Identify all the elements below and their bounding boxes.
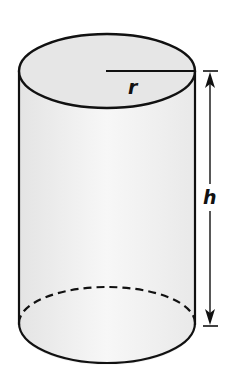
cylinder-body bbox=[19, 71, 195, 365]
cylinder-diagram: r h bbox=[0, 0, 235, 384]
height-label: h bbox=[203, 186, 217, 208]
radius-label: r bbox=[128, 76, 139, 98]
